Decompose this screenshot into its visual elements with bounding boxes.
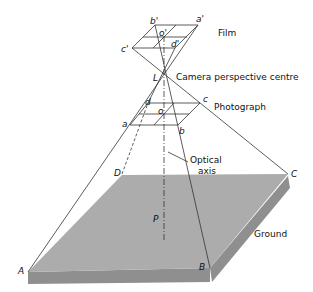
point-C: C <box>291 169 298 179</box>
photograph-label: Photograph <box>214 102 266 112</box>
point-L: L <box>153 73 158 83</box>
optical-axis-label-1: Optical <box>190 155 222 165</box>
point-o-prime: o' <box>159 28 167 38</box>
photogrammetry-diagram: Film Camera perspective centre Photograp… <box>0 0 313 292</box>
point-b-prime: b' <box>150 16 158 26</box>
point-D: D <box>114 168 121 178</box>
point-c: c <box>203 94 208 104</box>
optical-axis-label-2: axis <box>198 166 216 176</box>
point-d-prime: d' <box>171 39 179 49</box>
ground-label: Ground <box>254 229 287 239</box>
film-label: Film <box>218 28 236 38</box>
point-P: P <box>153 214 159 224</box>
point-c-prime: c' <box>121 44 128 54</box>
camera-centre-label: Camera perspective centre <box>176 72 299 82</box>
point-a-prime: a' <box>196 14 204 24</box>
point-B: B <box>199 262 205 272</box>
point-A: A <box>17 266 24 276</box>
point-d: d <box>145 97 151 107</box>
point-o: o <box>158 106 164 116</box>
photograph-plane <box>130 103 200 125</box>
point-b: b <box>179 126 185 136</box>
point-a: a <box>122 119 128 129</box>
